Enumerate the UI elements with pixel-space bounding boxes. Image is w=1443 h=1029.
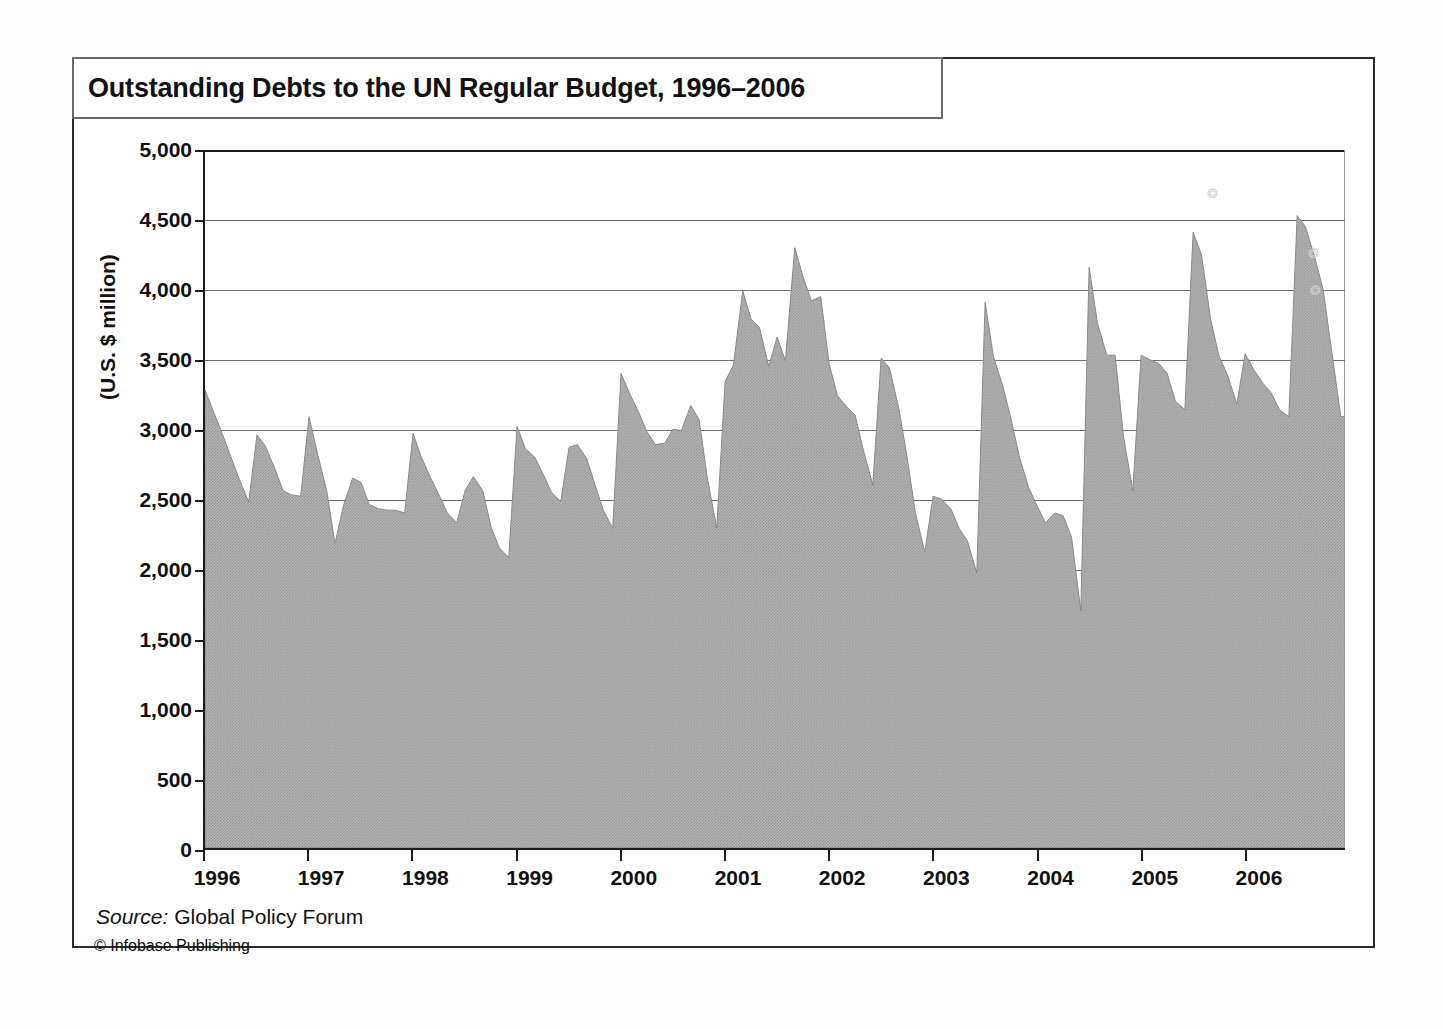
scan-speckle-icon: ❂ — [1207, 186, 1218, 201]
area-series-path — [205, 216, 1345, 848]
y-tick-mark-3500 — [195, 360, 204, 362]
y-tick-label-1000: 1,000 — [139, 698, 192, 722]
y-tick-label-3000: 3,000 — [139, 418, 192, 442]
area-series-chart — [205, 150, 1345, 848]
source-label: Source: — [96, 905, 168, 928]
y-tick-label-2500: 2,500 — [139, 488, 192, 512]
plot-area — [203, 150, 1345, 850]
x-tick-mark-2000 — [620, 850, 622, 861]
y-tick-label-5000: 5,000 — [139, 138, 192, 162]
y-tick-label-3500: 3,500 — [139, 348, 192, 372]
x-tick-mark-2006 — [1245, 850, 1247, 861]
x-tick-mark-2004 — [1037, 850, 1039, 861]
chart-title: Outstanding Debts to the UN Regular Budg… — [88, 73, 805, 104]
y-tick-label-4500: 4,500 — [139, 208, 192, 232]
y-tick-mark-5000 — [195, 150, 204, 152]
x-tick-mark-1997 — [307, 850, 309, 861]
x-tick-mark-2005 — [1141, 850, 1143, 861]
y-tick-mark-2000 — [195, 570, 204, 572]
x-tick-label-2001: 2001 — [715, 866, 762, 890]
y-tick-label-500: 500 — [157, 768, 192, 792]
y-tick-label-4000: 4,000 — [139, 278, 192, 302]
x-tick-label-2002: 2002 — [819, 866, 866, 890]
x-tick-mark-1996 — [203, 850, 205, 861]
x-tick-label-2005: 2005 — [1131, 866, 1178, 890]
x-tick-mark-2002 — [828, 850, 830, 861]
x-tick-label-1999: 1999 — [506, 866, 553, 890]
x-tick-label-2006: 2006 — [1236, 866, 1283, 890]
y-tick-mark-2500 — [195, 500, 204, 502]
x-tick-label-2004: 2004 — [1027, 866, 1074, 890]
y-tick-label-1500: 1,500 — [139, 628, 192, 652]
y-tick-mark-3000 — [195, 430, 204, 432]
scan-speckle-icon: ❂ — [1310, 283, 1321, 298]
source-value: Global Policy Forum — [168, 905, 363, 928]
y-axis-title: (U.S. $ million) — [96, 254, 120, 400]
copyright-line: © Infobase Publishing — [94, 937, 250, 955]
x-tick-label-2000: 2000 — [610, 866, 657, 890]
figure-page: Outstanding Debts to the UN Regular Budg… — [0, 0, 1443, 1029]
x-tick-mark-2003 — [932, 850, 934, 861]
plot-wrap — [203, 150, 1345, 850]
scan-speckle-icon: ❂ — [1308, 246, 1319, 261]
y-tick-label-0: 0 — [180, 838, 192, 862]
source-line: Source: Global Policy Forum — [96, 905, 363, 929]
x-tick-mark-1999 — [516, 850, 518, 861]
x-tick-label-2003: 2003 — [923, 866, 970, 890]
x-tick-mark-2001 — [724, 850, 726, 861]
y-tick-mark-1000 — [195, 710, 204, 712]
x-tick-label-1997: 1997 — [298, 866, 345, 890]
chart-title-box: Outstanding Debts to the UN Regular Budg… — [72, 57, 943, 119]
y-tick-mark-1500 — [195, 640, 204, 642]
y-tick-mark-500 — [195, 780, 204, 782]
y-tick-mark-4500 — [195, 220, 204, 222]
y-tick-label-2000: 2,000 — [139, 558, 192, 582]
y-tick-mark-4000 — [195, 290, 204, 292]
y-axis-tick-labels: 05001,0001,5002,0002,5003,0003,5004,0004… — [120, 150, 192, 850]
x-tick-label-1996: 1996 — [194, 866, 241, 890]
x-tick-label-1998: 1998 — [402, 866, 449, 890]
x-tick-mark-1998 — [411, 850, 413, 861]
